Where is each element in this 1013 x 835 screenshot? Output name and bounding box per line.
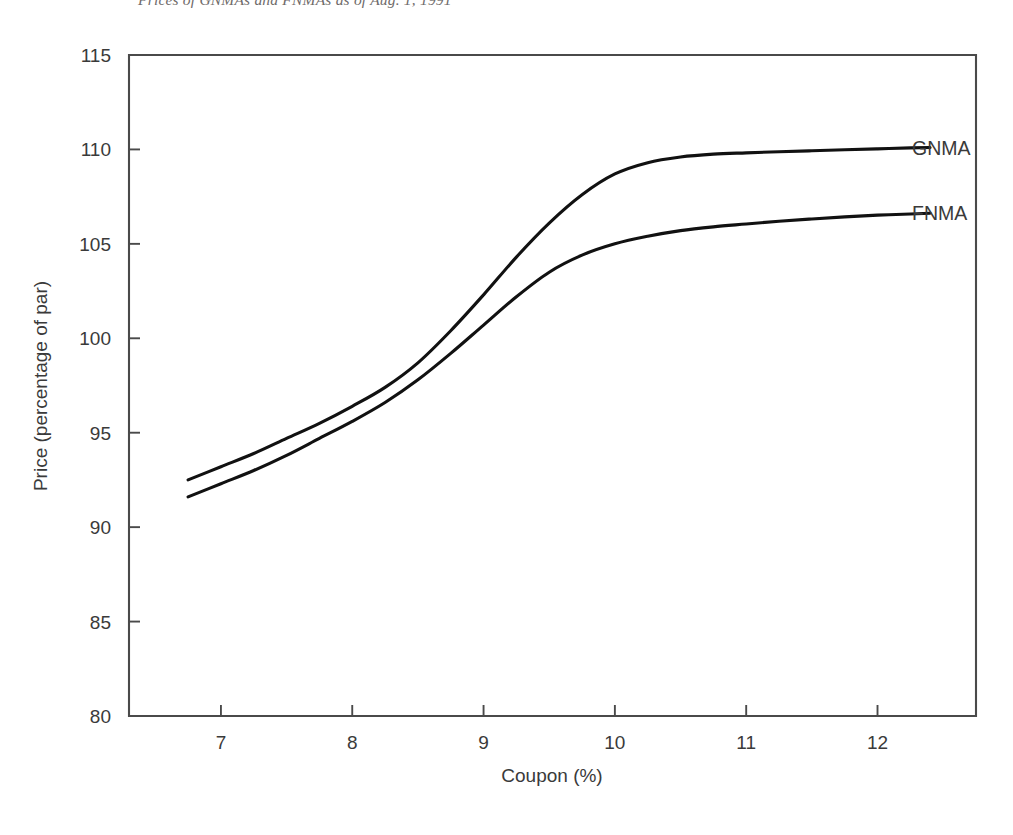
y-tick-label: 100 [79,328,111,349]
x-tick-label: 8 [347,732,358,753]
y-tick-label: 95 [90,423,111,444]
x-tick-label: 7 [216,732,227,753]
line-chart: 80859095100105110115 789101112 GNMAFNMA … [0,0,1013,835]
figure-root: Prices of GNMAs and FNMAs as of Aug. 1, … [0,0,1013,835]
x-axis-title: Coupon (%) [501,765,602,786]
y-tick-label: 85 [90,612,111,633]
series-line-fnma [188,213,930,497]
y-axis-ticks: 80859095100105110115 [79,45,140,727]
series-label-fnma: FNMA [912,202,967,224]
plot-frame [129,55,976,716]
series-layer [188,148,930,497]
series-label-gnma: GNMA [912,137,971,159]
x-tick-label: 9 [478,732,489,753]
y-tick-label: 115 [81,45,111,66]
y-axis-title: Price (percentage of par) [30,281,51,491]
y-tick-label: 90 [90,517,111,538]
series-labels: GNMAFNMA [912,137,971,225]
y-tick-label: 80 [90,706,111,727]
y-tick-label: 105 [79,234,111,255]
series-line-gnma [188,148,930,480]
x-axis-ticks: 789101112 [216,705,888,753]
x-tick-label: 11 [736,732,756,753]
y-tick-label: 110 [81,139,111,160]
x-tick-label: 10 [604,732,625,753]
x-tick-label: 12 [867,732,888,753]
